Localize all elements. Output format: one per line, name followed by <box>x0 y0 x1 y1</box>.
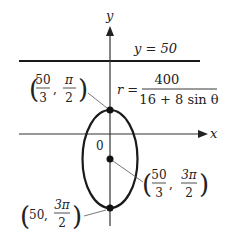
svg-text:3π: 3π <box>54 198 71 212</box>
x-axis-arrow-icon <box>198 130 208 138</box>
top-vertex-label: ( 50 3 , π 2 ) <box>29 73 88 105</box>
y-axis-arrow-icon <box>106 26 114 36</box>
x-axis-label: x <box>210 126 218 141</box>
svg-text:,: , <box>169 177 173 191</box>
focus-center-point <box>107 156 114 163</box>
bottom-vertex-leader <box>84 210 106 216</box>
polar-ellipse-diagram: y x 0 y = 50 r = 400 16 + 8 sin θ ( 50 3… <box>0 0 226 238</box>
top-vertex-point <box>107 107 114 114</box>
bottom-vertex-label: ( 50 , 3π 2 ) <box>20 198 82 231</box>
equation-lhs: r = <box>117 82 138 97</box>
svg-text:2: 2 <box>185 186 193 200</box>
origin-label: 0 <box>96 139 104 153</box>
svg-text:50: 50 <box>29 208 44 222</box>
bottom-vertex-point <box>107 205 114 212</box>
top-vertex-leader <box>88 93 107 108</box>
svg-text:3: 3 <box>39 91 47 105</box>
equation-denominator: 16 + 8 sin θ <box>139 92 218 107</box>
svg-text:): ) <box>78 74 88 104</box>
svg-text:3π: 3π <box>181 168 198 182</box>
svg-text:π: π <box>64 73 74 87</box>
directrix-label: y = 50 <box>133 41 177 56</box>
svg-text:50: 50 <box>151 168 166 182</box>
focus-center-leader <box>113 161 143 182</box>
equation-numerator: 400 <box>155 72 180 87</box>
y-axis-label: y <box>105 8 114 23</box>
svg-text:,: , <box>53 82 57 96</box>
svg-text:2: 2 <box>65 91 73 105</box>
focus-center-label: ( 50 3 , 3π 2 ) <box>142 168 209 200</box>
svg-text:2: 2 <box>58 216 66 230</box>
svg-text:3: 3 <box>155 186 163 200</box>
svg-text:): ) <box>199 169 209 199</box>
svg-text:,: , <box>44 208 48 222</box>
svg-text:50: 50 <box>35 73 50 87</box>
svg-text:): ) <box>72 201 82 231</box>
